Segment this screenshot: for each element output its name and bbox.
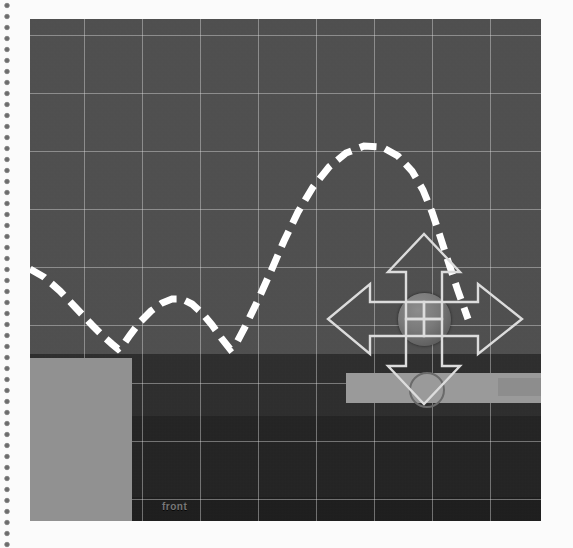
platform-left-block[interactable] <box>30 358 132 521</box>
floor-label: front <box>162 501 187 512</box>
rigidbody-sphere[interactable] <box>398 293 451 346</box>
game-viewport[interactable]: front <box>30 19 541 521</box>
platform-bar-hole-icon <box>409 372 445 408</box>
perforation-strip <box>0 0 16 548</box>
platform-bar-extension[interactable] <box>498 378 541 396</box>
background-sky-band <box>30 19 541 354</box>
screenshot-root: front <box>0 0 573 548</box>
